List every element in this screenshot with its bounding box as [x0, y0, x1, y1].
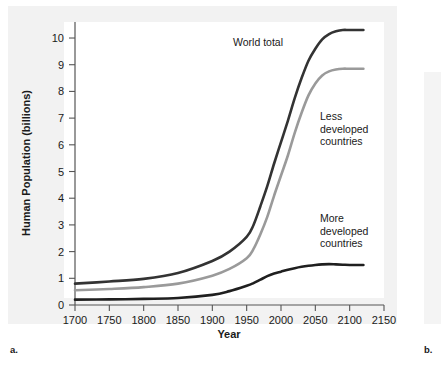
- y-tick-label: 1: [58, 272, 64, 284]
- x-axis-title: Year: [217, 328, 241, 340]
- annotation-1: Lessdevelopedcountries: [320, 110, 369, 147]
- y-tick-label: 2: [58, 246, 64, 258]
- y-tick-label: 5: [58, 166, 64, 178]
- x-tick-label: 2000: [269, 314, 293, 326]
- population-growth-chart: 012345678910 170017501800185019001950200…: [0, 0, 441, 367]
- x-tick-label: 1900: [200, 314, 224, 326]
- x-tick-label: 1800: [131, 314, 155, 326]
- y-tick-label: 3: [58, 219, 64, 231]
- figure-root: 012345678910 170017501800185019001950200…: [0, 0, 441, 367]
- y-tick-label: 9: [58, 59, 64, 71]
- y-axis-ticks: 012345678910: [52, 32, 75, 311]
- x-tick-label: 2100: [337, 314, 361, 326]
- annotation-2: Moredevelopedcountries: [320, 212, 369, 249]
- annotation-0: World total: [233, 36, 283, 48]
- y-tick-label: 0: [58, 299, 64, 311]
- series-lines: [75, 30, 363, 300]
- x-tick-label: 2050: [303, 314, 327, 326]
- x-axis-ticks: 1700175018001850190019502000205021002150: [63, 305, 396, 326]
- x-tick-label: 1950: [234, 314, 258, 326]
- x-tick-label: 1850: [166, 314, 190, 326]
- y-axis-title: Human Population (billions): [20, 90, 32, 236]
- x-tick-label: 1700: [63, 314, 87, 326]
- y-tick-label: 4: [58, 192, 64, 204]
- figure-label-a: a.: [10, 344, 18, 355]
- figure-label-b: b.: [424, 344, 432, 355]
- y-tick-label: 7: [58, 112, 64, 124]
- x-tick-label: 1750: [97, 314, 121, 326]
- x-tick-label: 2150: [372, 314, 396, 326]
- y-tick-label: 10: [52, 32, 64, 44]
- y-tick-label: 6: [58, 139, 64, 151]
- y-tick-label: 8: [58, 85, 64, 97]
